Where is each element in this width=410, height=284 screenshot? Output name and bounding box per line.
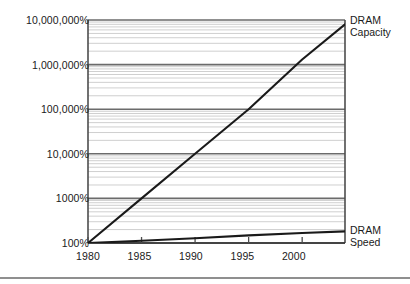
x-tick-label-2000: 2000 xyxy=(282,250,306,262)
x-tick-label-1980: 1980 xyxy=(76,250,100,262)
x-tick-label-1995: 1995 xyxy=(231,250,255,262)
series-label-dram-speed-line2: Speed xyxy=(350,236,381,248)
x-tick-label-1985: 1985 xyxy=(128,250,152,262)
y-tick-label-1000: 1000% xyxy=(56,192,89,204)
y-tick-label-1000000: 1,000,000% xyxy=(32,59,89,71)
series-label-dram-speed: DRAM Speed xyxy=(350,224,381,248)
y-tick-label-100000: 100,000% xyxy=(41,103,89,115)
series-label-dram-speed-line1: DRAM xyxy=(350,224,381,236)
series-label-dram-capacity: DRAM Capacity xyxy=(350,14,391,38)
y-tick-label-100: 100% xyxy=(62,237,89,249)
series-label-dram-capacity-line1: DRAM xyxy=(350,14,391,26)
figure-bottom-rule xyxy=(0,277,410,279)
series-label-dram-capacity-line2: Capacity xyxy=(350,26,391,38)
dram-growth-chart-figure: 10,000,000% 1,000,000% 100,000% 10,000% … xyxy=(0,0,410,284)
series-line-dram-capacity xyxy=(88,24,345,243)
x-tick-label-1990: 1990 xyxy=(179,250,203,262)
y-tick-label-10000000: 10,000,000% xyxy=(26,14,89,26)
series-line-dram-speed xyxy=(88,231,345,243)
y-tick-label-10000: 10,000% xyxy=(47,148,89,160)
